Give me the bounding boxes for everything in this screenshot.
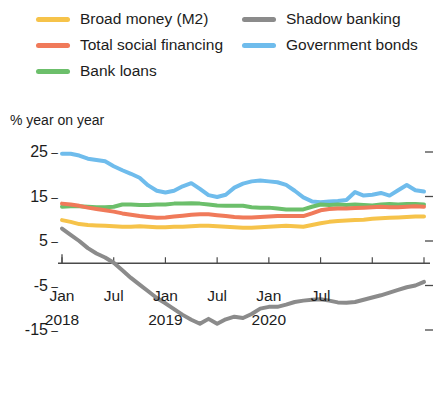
- legend-swatch-govbonds: [242, 43, 276, 48]
- legend-label-m2: Broad money (M2): [80, 11, 208, 27]
- legend-swatch-shadow: [242, 17, 276, 22]
- y-axis-tick-label-1: 15 –: [0, 188, 58, 206]
- x-axis-month-label-5: Jul: [311, 287, 331, 305]
- y-axis-tick-dash-1: –: [48, 191, 58, 205]
- series-line-shadow-banking: [62, 229, 424, 324]
- legend-swatch-loans: [36, 69, 70, 74]
- legend-column-left: Broad money (M2)Total social financingBa…: [36, 6, 223, 84]
- y-axis-tick-dash-2: –: [48, 235, 58, 249]
- x-axis-year-label-0: 2018: [45, 311, 79, 329]
- x-axis-year-label-2: 2019: [148, 311, 182, 329]
- legend-item-shadow[interactable]: Shadow banking: [242, 6, 418, 32]
- legend-label-shadow: Shadow banking: [286, 11, 401, 27]
- x-axis-month-label-4: Jan: [256, 287, 281, 305]
- x-axis-year-label-4: 2020: [252, 311, 286, 329]
- legend-column-right: Shadow bankingGovernment bonds: [242, 6, 418, 58]
- legend-label-loans: Bank loans: [80, 63, 157, 79]
- chart-svg: [0, 96, 439, 396]
- legend-swatch-m2: [36, 17, 70, 22]
- legend-swatch-tsf: [36, 43, 70, 48]
- plot-area: 25 –15 –5 –-5 –-15 – Jan2018JulJan2019Ju…: [0, 96, 439, 396]
- x-axis-month-label-3: Jul: [207, 287, 227, 305]
- x-axis-month-label-1: Jul: [104, 287, 124, 305]
- legend-item-tsf[interactable]: Total social financing: [36, 32, 223, 58]
- legend-item-loans[interactable]: Bank loans: [36, 58, 223, 84]
- y-axis-tick-dash-0: –: [48, 146, 58, 160]
- legend-label-tsf: Total social financing: [80, 37, 223, 53]
- legend-item-govbonds[interactable]: Government bonds: [242, 32, 418, 58]
- x-axis-month-label-0: Jan: [50, 287, 75, 305]
- y-axis-tick-label-0: 25 –: [0, 143, 58, 161]
- series-line-government-bonds: [62, 154, 424, 203]
- x-axis-month-label-2: Jan: [153, 287, 178, 305]
- legend-label-govbonds: Government bonds: [286, 37, 418, 53]
- y-axis-tick-label-2: 5 –: [0, 232, 58, 250]
- chart-figure: Broad money (M2)Total social financingBa…: [0, 0, 439, 396]
- chart-legend: Broad money (M2)Total social financingBa…: [0, 0, 439, 96]
- legend-item-m2[interactable]: Broad money (M2): [36, 6, 223, 32]
